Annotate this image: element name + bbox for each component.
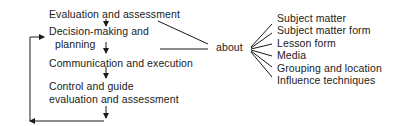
topic-item: Subject matter [277, 12, 346, 24]
topic-item: Grouping and location [277, 62, 382, 74]
step-control-line2: evaluation and assessment [49, 93, 179, 105]
step-communication: Communication and execution [49, 57, 193, 69]
topic-item: Subject matter form [277, 24, 371, 36]
fan-line [251, 44, 272, 49]
step-decision-line1: Decision-making and [49, 25, 149, 37]
step-decision-line2: planning [55, 38, 96, 50]
step-control-line1: Control and guide [49, 80, 134, 92]
step-evaluation: Evaluation and assessment [49, 8, 180, 20]
feedback-arrow-icon [30, 37, 44, 121]
link-line [158, 21, 208, 44]
connector-about: about [216, 41, 243, 53]
topic-item: Lesson form [277, 37, 336, 49]
topic-item: Media [277, 49, 306, 61]
topic-item: Influence techniques [277, 74, 375, 86]
